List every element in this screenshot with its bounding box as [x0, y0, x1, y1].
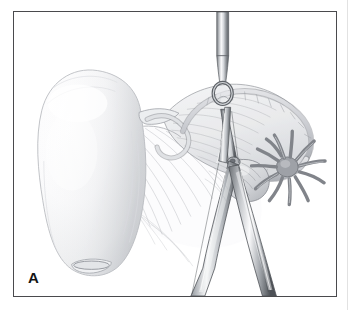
- figure-root: A: [0, 0, 353, 310]
- uterus: [38, 70, 146, 276]
- page-gutter-line: [347, 0, 348, 310]
- medical-illustration: [14, 12, 336, 296]
- figure-frame: A: [13, 11, 337, 297]
- panel-label: A: [28, 270, 39, 285]
